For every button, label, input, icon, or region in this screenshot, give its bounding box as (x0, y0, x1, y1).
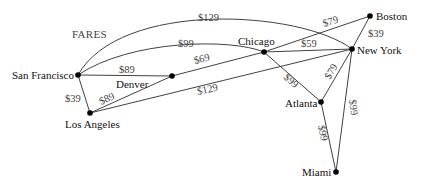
node-boston (367, 13, 373, 19)
edge-sf-denver (78, 75, 172, 76)
node-atlanta (318, 99, 324, 105)
edge-chicago-boston (264, 16, 370, 52)
node-sf (75, 72, 81, 78)
node-denver (169, 73, 175, 79)
fare-sf-denver: $89 (119, 64, 135, 75)
fares-graph: FARES San Francisco Los Angeles Denver C… (0, 0, 424, 185)
fare-boston-newyork: $39 (368, 28, 384, 39)
fare-la-denver: $89 (97, 90, 116, 106)
fare-sf-newyork: $129 (198, 12, 219, 23)
label-boston: Boston (376, 10, 408, 22)
node-newyork (349, 46, 355, 52)
fare-denver-chicago: $69 (193, 51, 211, 65)
label-atlanta: Atlanta (285, 97, 317, 109)
label-sf: San Francisco (12, 69, 75, 81)
fare-newyork-miami: $99 (347, 99, 360, 116)
node-chicago (261, 49, 267, 55)
fare-sf-chicago: $99 (178, 38, 194, 49)
label-miami: Miami (302, 166, 331, 178)
fare-sf-la: $39 (65, 93, 81, 104)
label-denver: Denver (116, 78, 149, 90)
label-chicago: Chicago (238, 35, 275, 47)
node-la (87, 110, 93, 116)
diagram-title: FARES (72, 28, 107, 40)
fare-newyork-atlanta: $79 (322, 62, 339, 81)
fare-atlanta-miami: $99 (316, 124, 330, 142)
node-miami (333, 169, 339, 175)
fare-chicago-newyork: $59 (301, 38, 317, 49)
edge-denver-chicago (172, 52, 264, 76)
fare-chicago-boston: $79 (321, 14, 339, 29)
label-newyork: New York (357, 44, 402, 56)
label-la: Los Angeles (65, 118, 120, 130)
fare-chicago-atlanta: $99 (282, 71, 301, 90)
edge-chicago-newyork (264, 49, 352, 52)
fare-la-newyork: $129 (196, 82, 219, 97)
